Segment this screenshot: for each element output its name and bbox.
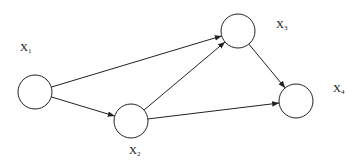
edge-x1-x2 — [51, 97, 114, 116]
node-label-x1: X1 — [20, 41, 31, 55]
label-text: X — [20, 41, 28, 53]
node-x4 — [279, 84, 313, 118]
label-text: X — [129, 144, 137, 156]
node-x3 — [221, 14, 255, 48]
node-label-x4: X4 — [333, 82, 344, 96]
node-label-x2: X2 — [129, 144, 140, 158]
label-subscript: 1 — [28, 47, 32, 55]
edges — [51, 36, 285, 119]
edge-x2-x4 — [148, 103, 279, 119]
label-subscript: 4 — [341, 88, 345, 96]
label-text: X — [333, 82, 341, 94]
node-x1 — [18, 75, 52, 109]
label-text: X — [276, 18, 284, 30]
edge-x1-x3 — [51, 36, 221, 87]
nodes — [18, 14, 313, 138]
label-subscript: 2 — [137, 150, 141, 158]
node-x2 — [114, 104, 148, 138]
edge-x3-x4 — [249, 44, 285, 88]
edge-x2-x3 — [144, 42, 225, 110]
label-subscript: 3 — [284, 24, 288, 32]
node-label-x3: X3 — [276, 18, 287, 32]
graph-canvas — [0, 0, 363, 162]
